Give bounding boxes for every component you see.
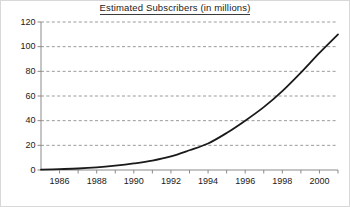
x-tick-label: 1998 — [262, 177, 302, 186]
x-tick-label: 1996 — [225, 177, 265, 186]
y-tick-label: 0 — [6, 166, 36, 175]
gridlines — [41, 22, 338, 145]
y-axis-ticks — [38, 22, 42, 170]
data-series-line — [41, 34, 338, 169]
y-tick-label: 120 — [6, 18, 36, 27]
chart-figure: Estimated Subscribers (in millions) 0204… — [0, 0, 350, 207]
x-tick-label: 1988 — [77, 177, 117, 186]
y-tick-label: 80 — [6, 67, 36, 76]
x-tick-label: 1986 — [40, 177, 80, 186]
x-tick-label: 1992 — [151, 177, 191, 186]
y-tick-label: 40 — [6, 116, 36, 125]
x-tick-label: 1990 — [114, 177, 154, 186]
x-tick-label: 2000 — [299, 177, 339, 186]
x-axis-ticks — [60, 170, 338, 174]
y-tick-label: 60 — [6, 92, 36, 101]
y-tick-label: 20 — [6, 141, 36, 150]
y-tick-label: 100 — [6, 42, 36, 51]
x-tick-label: 1994 — [188, 177, 228, 186]
